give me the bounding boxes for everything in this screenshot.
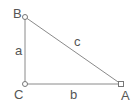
vertex-c-label: C [14, 87, 23, 102]
vertex-b-label: B [13, 6, 22, 21]
side-b-label: b [70, 87, 77, 102]
triangle-diagram: B C A a b c [0, 0, 137, 104]
vertex-a-marker [119, 82, 124, 87]
vertex-a-label: A [121, 88, 130, 103]
vertex-b-marker [23, 15, 28, 20]
vertex-c-marker [23, 82, 28, 87]
side-c-line [25, 17, 121, 84]
side-c-label: c [74, 34, 81, 49]
side-a-label: a [15, 43, 23, 58]
